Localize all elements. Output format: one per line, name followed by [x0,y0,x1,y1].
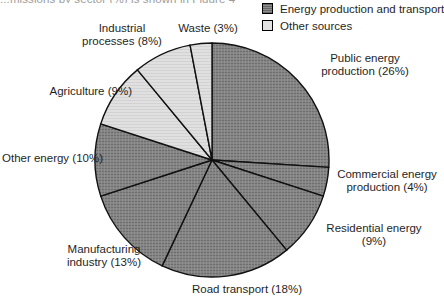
slice-label-commercial-energy-production: Commercial energy production (4%) [332,168,442,194]
slice-label-line: Other energy (10%) [2,152,110,165]
chart-legend: Energy production and transport Other so… [262,1,443,35]
slice-label-line: (9%) [306,235,442,248]
legend-label: Energy production and transport [280,3,444,15]
legend-swatch-dark-gray-icon [262,3,273,14]
slice-label-waste: Waste (3%) [171,22,245,35]
slice-label-line: Road transport (18%) [182,283,312,296]
slice-label-line: Waste (3%) [171,22,245,35]
slice-label-line: industry (13%) [58,256,150,269]
slice-label-line: Residential energy [306,222,442,235]
slice-label-line: Commercial energy [332,168,442,181]
legend-item-other-sources: Other sources [262,18,443,33]
slice-label-line: Agriculture (9%) [22,85,132,98]
slice-label-industrial-processes: Industrial processes (8%) [76,22,168,48]
body-text-fragment: ...missions by sector (%) is shown in Fi… [0,0,262,3]
slice-label-road-transport: Road transport (18%) [182,283,312,296]
slice-label-manufacturing-industry: Manufacturing industry (13%) [58,243,150,269]
slice-label-line: Industrial [76,22,168,35]
pie-slices: Public energy production (26%)Commercial… [95,43,329,277]
slice-label-line: production (26%) [304,65,426,78]
legend-item-energy-production-and-transport: Energy production and transport [262,1,443,16]
slice-label-other-energy: Other energy (10%) [2,152,110,165]
slice-label-agriculture: Agriculture (9%) [22,85,132,98]
legend-swatch-light-gray-icon [262,20,273,31]
slice-label-line: processes (8%) [76,35,168,48]
slice-label-line: Manufacturing [58,243,150,256]
legend-label: Other sources [280,20,352,32]
slice-label-public-energy-production: Public energy production (26%) [304,52,426,78]
slice-label-residential-energy: Residential energy (9%) [306,222,442,248]
slice-label-line: Public energy [304,52,426,65]
slice-label-line: production (4%) [332,181,442,194]
